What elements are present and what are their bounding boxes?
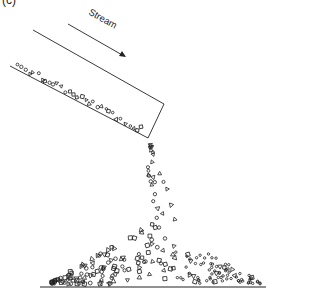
square-particle-icon bbox=[222, 266, 226, 270]
square-particle-icon bbox=[132, 236, 137, 241]
segregation-diagram: Stream bbox=[0, 0, 316, 292]
circle-particle-icon bbox=[175, 251, 177, 253]
circle-particle-icon bbox=[101, 274, 104, 277]
circle-particle-icon bbox=[228, 271, 230, 273]
square-particle-icon bbox=[163, 277, 167, 281]
triangle-particle-icon bbox=[90, 256, 95, 261]
square-particle-icon bbox=[136, 261, 140, 265]
triangle-particle-icon bbox=[55, 82, 59, 85]
circle-particle-icon bbox=[208, 269, 210, 271]
square-particle-icon bbox=[110, 245, 114, 249]
circle-particle-icon bbox=[228, 264, 230, 266]
square-particle-icon bbox=[186, 252, 191, 257]
triangle-particle-icon bbox=[90, 261, 94, 265]
circle-particle-icon bbox=[215, 257, 217, 259]
square-particle-icon bbox=[95, 269, 100, 274]
triangle-particle-icon bbox=[173, 217, 177, 221]
triangle-particle-icon bbox=[87, 102, 91, 106]
circle-particle-icon bbox=[176, 276, 178, 278]
trough bbox=[10, 30, 164, 138]
circle-particle-icon bbox=[88, 281, 92, 285]
square-particle-icon bbox=[106, 109, 110, 113]
triangle-particle-icon bbox=[150, 242, 154, 246]
triangle-particle-icon bbox=[137, 275, 142, 279]
circle-particle-icon bbox=[20, 65, 23, 68]
square-particle-icon bbox=[171, 266, 175, 270]
circle-particle-icon bbox=[200, 263, 202, 265]
circle-particle-icon bbox=[152, 200, 155, 203]
circle-particle-icon bbox=[111, 111, 114, 114]
square-particle-icon bbox=[139, 125, 143, 129]
circle-particle-icon bbox=[64, 91, 67, 94]
triangle-particle-icon bbox=[160, 212, 163, 216]
triangle-particle-icon bbox=[155, 207, 160, 211]
circle-particle-icon bbox=[157, 226, 160, 229]
triangle-particle-icon bbox=[189, 259, 194, 263]
triangle-particle-icon bbox=[124, 122, 128, 126]
circle-particle-icon bbox=[195, 257, 197, 259]
circle-particle-icon bbox=[211, 266, 213, 268]
triangle-particle-icon bbox=[31, 70, 34, 73]
square-particle-icon bbox=[68, 90, 71, 93]
square-particle-icon bbox=[80, 94, 84, 98]
circle-particle-icon bbox=[206, 280, 208, 282]
circle-particle-icon bbox=[80, 272, 83, 275]
circle-particle-icon bbox=[180, 277, 182, 279]
triangle-particle-icon bbox=[139, 228, 144, 233]
square-particle-icon bbox=[145, 243, 150, 248]
circle-particle-icon bbox=[217, 276, 219, 278]
circle-particle-icon bbox=[199, 254, 201, 256]
square-particle-icon bbox=[163, 262, 167, 266]
triangle-particle-icon bbox=[85, 98, 88, 101]
circle-particle-icon bbox=[211, 273, 213, 275]
circle-particle-icon bbox=[163, 237, 167, 241]
triangle-particle-icon bbox=[162, 268, 166, 272]
square-particle-icon bbox=[75, 96, 78, 99]
circle-particle-icon bbox=[211, 257, 213, 259]
triangle-particle-icon bbox=[151, 175, 155, 179]
circle-particle-icon bbox=[106, 261, 110, 265]
circle-particle-icon bbox=[182, 278, 184, 280]
circle-particle-icon bbox=[91, 266, 94, 269]
circle-particle-icon bbox=[114, 257, 118, 261]
circle-particle-icon bbox=[211, 263, 213, 265]
triangle-particle-icon bbox=[151, 259, 155, 263]
triangle-particle-icon bbox=[231, 267, 235, 272]
square-particle-icon bbox=[135, 129, 139, 133]
square-particle-icon bbox=[153, 225, 158, 230]
circle-particle-icon bbox=[121, 265, 124, 268]
square-particle-icon bbox=[150, 223, 154, 227]
circle-particle-icon bbox=[202, 262, 204, 264]
circle-particle-icon bbox=[48, 81, 51, 84]
circle-particle-icon bbox=[203, 257, 205, 259]
circle-particle-icon bbox=[224, 263, 226, 265]
triangle-particle-icon bbox=[114, 117, 118, 121]
circle-particle-icon bbox=[162, 180, 165, 183]
circle-particle-icon bbox=[37, 72, 40, 75]
triangle-particle-icon bbox=[126, 279, 130, 282]
triangle-particle-icon bbox=[218, 265, 223, 269]
circle-particle-icon bbox=[150, 238, 154, 242]
circle-particle-icon bbox=[51, 83, 54, 86]
triangle-particle-icon bbox=[151, 160, 155, 164]
triangle-particle-icon bbox=[148, 272, 152, 276]
circle-particle-icon bbox=[146, 166, 149, 169]
circle-particle-icon bbox=[207, 253, 209, 255]
square-particle-icon bbox=[213, 279, 218, 284]
circle-particle-icon bbox=[91, 100, 94, 103]
circle-particle-icon bbox=[256, 281, 258, 283]
square-particle-icon bbox=[193, 279, 198, 284]
square-particle-icon bbox=[105, 253, 110, 258]
circle-particle-icon bbox=[24, 68, 27, 71]
square-particle-icon bbox=[146, 250, 150, 254]
stream-label: Stream bbox=[87, 6, 119, 31]
circle-particle-icon bbox=[155, 216, 158, 219]
particles bbox=[16, 63, 261, 286]
triangle-particle-icon bbox=[59, 85, 63, 88]
triangle-particle-icon bbox=[232, 273, 236, 278]
square-particle-icon bbox=[43, 79, 47, 83]
triangle-particle-icon bbox=[99, 104, 103, 108]
circle-particle-icon bbox=[259, 282, 261, 284]
triangle-particle-icon bbox=[166, 187, 170, 191]
triangle-particle-icon bbox=[161, 248, 165, 252]
